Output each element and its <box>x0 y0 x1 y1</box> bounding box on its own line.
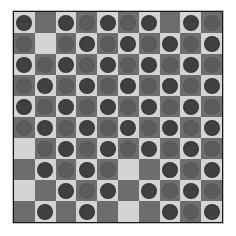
board-cell-r3-c2[interactable] <box>56 75 77 96</box>
board-cell-r6-c7[interactable] <box>160 138 181 159</box>
game-piece[interactable] <box>59 37 73 51</box>
game-piece[interactable] <box>184 37 198 51</box>
game-piece[interactable] <box>142 58 156 72</box>
game-piece[interactable] <box>38 58 52 72</box>
game-piece[interactable] <box>142 100 156 114</box>
board-cell-r1-c2[interactable] <box>56 33 77 54</box>
board-cell-r0-c0[interactable] <box>14 12 35 33</box>
board-cell-r7-c8[interactable] <box>180 159 201 180</box>
board-cell-r8-c8[interactable] <box>180 180 201 201</box>
board-cell-r7-c3[interactable] <box>76 159 97 180</box>
board-cell-r2-c1[interactable] <box>35 54 56 75</box>
game-piece[interactable] <box>184 121 198 135</box>
game-piece[interactable] <box>163 37 177 51</box>
board-cell-r2-c8[interactable] <box>180 54 201 75</box>
board-cell-r8-c2[interactable] <box>56 180 77 201</box>
board-cell-r6-c4[interactable] <box>97 138 118 159</box>
board-cell-r5-c4[interactable] <box>97 117 118 138</box>
board-cell-r5-c3[interactable] <box>76 117 97 138</box>
game-piece[interactable] <box>59 142 73 156</box>
board-cell-r7-c1[interactable] <box>35 159 56 180</box>
game-piece[interactable] <box>80 79 94 93</box>
game-piece[interactable] <box>184 100 198 114</box>
game-piece[interactable] <box>80 37 94 51</box>
board-cell-r2-c9[interactable] <box>201 54 222 75</box>
board-cell-r3-c3[interactable] <box>76 75 97 96</box>
board-cell-r5-c7[interactable] <box>160 117 181 138</box>
board-cell-r2-c3[interactable] <box>76 54 97 75</box>
board-cell-r2-c2[interactable] <box>56 54 77 75</box>
board-cell-r5-c0[interactable] <box>14 117 35 138</box>
game-piece[interactable] <box>205 142 219 156</box>
game-piece[interactable] <box>38 163 52 177</box>
game-piece[interactable] <box>101 121 115 135</box>
board-cell-r0-c9[interactable] <box>201 12 222 33</box>
board-cell-r8-c6[interactable] <box>139 180 160 201</box>
board-cell-r3-c1[interactable] <box>35 75 56 96</box>
game-piece[interactable] <box>101 79 115 93</box>
game-piece[interactable] <box>38 121 52 135</box>
board-cell-r7-c2[interactable] <box>56 159 77 180</box>
game-piece[interactable] <box>142 121 156 135</box>
game-piece[interactable] <box>80 163 94 177</box>
board-cell-r6-c2[interactable] <box>56 138 77 159</box>
board-cell-r3-c8[interactable] <box>180 75 201 96</box>
game-piece[interactable] <box>17 37 31 51</box>
game-piece[interactable] <box>38 142 52 156</box>
game-piece[interactable] <box>142 142 156 156</box>
board-cell-r9-c6[interactable] <box>139 201 160 222</box>
board-cell-r6-c9[interactable] <box>201 138 222 159</box>
board-cell-r2-c0[interactable] <box>14 54 35 75</box>
game-piece[interactable] <box>142 16 156 30</box>
board-cell-r1-c4[interactable] <box>97 33 118 54</box>
game-piece[interactable] <box>205 58 219 72</box>
board-cell-r5-c8[interactable] <box>180 117 201 138</box>
game-piece[interactable] <box>59 79 73 93</box>
game-piece[interactable] <box>184 163 198 177</box>
game-piece[interactable] <box>121 37 135 51</box>
board-cell-r1-c0[interactable] <box>14 33 35 54</box>
game-piece[interactable] <box>184 79 198 93</box>
board-cell-r4-c5[interactable] <box>118 96 139 117</box>
board-cell-r0-c8[interactable] <box>180 12 201 33</box>
game-piece[interactable] <box>184 58 198 72</box>
board-cell-r0-c4[interactable] <box>97 12 118 33</box>
board-cell-r6-c0[interactable] <box>14 138 35 159</box>
game-piece[interactable] <box>59 184 73 198</box>
game-piece[interactable] <box>17 121 31 135</box>
game-piece[interactable] <box>80 100 94 114</box>
board-cell-r8-c7[interactable] <box>160 180 181 201</box>
board-cell-r6-c1[interactable] <box>35 138 56 159</box>
game-piece[interactable] <box>184 142 198 156</box>
board-cell-r9-c2[interactable] <box>56 201 77 222</box>
game-piece[interactable] <box>163 121 177 135</box>
game-piece[interactable] <box>121 79 135 93</box>
game-piece[interactable] <box>80 142 94 156</box>
board-cell-r1-c9[interactable] <box>201 33 222 54</box>
board-cell-r8-c9[interactable] <box>201 180 222 201</box>
game-piece[interactable] <box>205 184 219 198</box>
board-cell-r9-c1[interactable] <box>35 201 56 222</box>
board-cell-r5-c6[interactable] <box>139 117 160 138</box>
board-cell-r8-c0[interactable] <box>14 180 35 201</box>
game-piece[interactable] <box>17 58 31 72</box>
game-piece[interactable] <box>17 79 31 93</box>
board-cell-r3-c7[interactable] <box>160 75 181 96</box>
game-piece[interactable] <box>17 16 31 30</box>
game-piece[interactable] <box>205 79 219 93</box>
board-cell-r4-c8[interactable] <box>180 96 201 117</box>
board-cell-r3-c0[interactable] <box>14 75 35 96</box>
board-cell-r0-c3[interactable] <box>76 12 97 33</box>
board-cell-r3-c9[interactable] <box>201 75 222 96</box>
board-cell-r4-c6[interactable] <box>139 96 160 117</box>
game-piece[interactable] <box>17 100 31 114</box>
board-cell-r7-c4[interactable] <box>97 159 118 180</box>
game-piece[interactable] <box>142 184 156 198</box>
game-piece[interactable] <box>101 58 115 72</box>
board-cell-r8-c5[interactable] <box>118 180 139 201</box>
board-cell-r4-c0[interactable] <box>14 96 35 117</box>
board-cell-r4-c2[interactable] <box>56 96 77 117</box>
game-piece[interactable] <box>184 184 198 198</box>
game-piece[interactable] <box>163 79 177 93</box>
game-piece[interactable] <box>121 16 135 30</box>
